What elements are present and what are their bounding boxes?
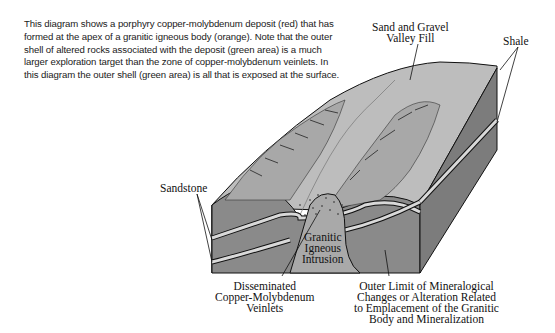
label-veinlets: Disseminated Copper-Molybdenum Veinlets <box>215 281 314 314</box>
label-intrusion: Granitic Igneous Intrusion <box>302 232 344 265</box>
label-shale: Shale <box>503 36 529 47</box>
label-sandstone: Sandstone <box>160 183 207 194</box>
label-valley-fill: Sand and Gravel Valley Fill <box>372 22 449 44</box>
label-outer-limit: Outer Limit of Mineralogical Changes or … <box>354 281 499 325</box>
